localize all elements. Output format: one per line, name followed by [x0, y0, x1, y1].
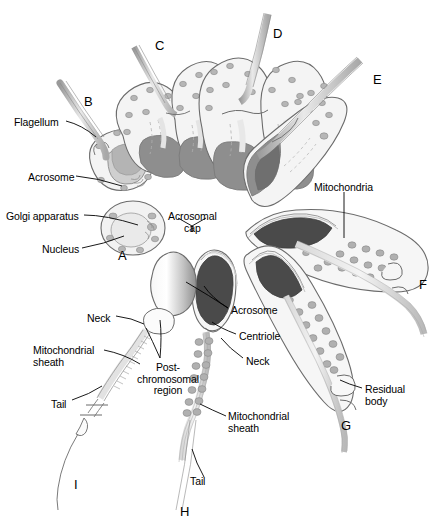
- spermiogenesis-figure: ABCDEFGHIFlagellumAcrosomeGolgi apparatu…: [0, 0, 442, 532]
- label-nucleus: Nucleus: [42, 244, 79, 256]
- stage-letter-b: B: [84, 94, 93, 109]
- label-neck-h: Neck: [246, 356, 270, 368]
- label-flagellum: Flagellum: [14, 117, 59, 129]
- stage-a-cell: [101, 201, 165, 255]
- label-post-chromosomal-region: Post- chromosomal region: [137, 362, 199, 397]
- label-tail-h: Tail: [190, 476, 205, 488]
- label-mitochondrial-sheath-h: Mitochondrial sheath: [228, 411, 289, 434]
- stage-letter-e: E: [373, 72, 382, 87]
- label-mitochondrial-sheath-i: Mitochondrial sheath: [33, 345, 94, 368]
- label-centriole: Centriole: [239, 331, 280, 343]
- label-tail-i: Tail: [51, 399, 66, 411]
- label-residual-body: Residual body: [365, 384, 405, 407]
- stage-letter-h: H: [180, 504, 189, 519]
- stage-letter-c: C: [155, 38, 164, 53]
- label-acrosomal-cap: Acrosomal cap: [168, 211, 217, 234]
- stage-letter-i: I: [74, 477, 78, 492]
- stage-letter-f: F: [419, 277, 427, 292]
- label-acrosome-b: Acrosome: [28, 172, 74, 184]
- stage-letter-a: A: [118, 248, 127, 263]
- label-acrosome-h: Acrosome: [231, 305, 277, 317]
- label-golgi-apparatus: Golgi apparatus: [6, 211, 79, 223]
- label-mitochondria: Mitochondria: [314, 182, 373, 194]
- stage-letter-d: D: [273, 26, 282, 41]
- stage-letter-g: G: [341, 418, 351, 433]
- label-neck-i: Neck: [87, 313, 111, 325]
